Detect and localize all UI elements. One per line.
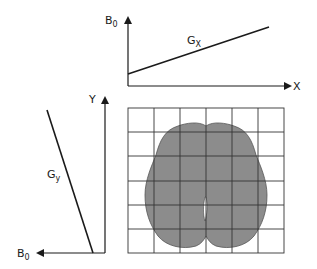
top-b0-label: B0 — [105, 14, 118, 29]
left-b0-label: B0 — [17, 247, 30, 262]
top-gradient-plot: B0 X GX — [105, 14, 301, 93]
gy-gradient-line — [47, 110, 93, 253]
y-axis-label: Y — [88, 93, 96, 106]
gy-label: Gy — [47, 168, 61, 183]
left-gradient-plot: Y B0 Gy — [17, 93, 105, 262]
gradient-diagram: B0 X GX Y B0 Gy — [0, 0, 317, 269]
gx-label: GX — [187, 34, 202, 49]
x-axis-label: X — [293, 80, 301, 93]
brain-grid-panel — [128, 108, 284, 253]
gx-gradient-line — [128, 27, 269, 74]
